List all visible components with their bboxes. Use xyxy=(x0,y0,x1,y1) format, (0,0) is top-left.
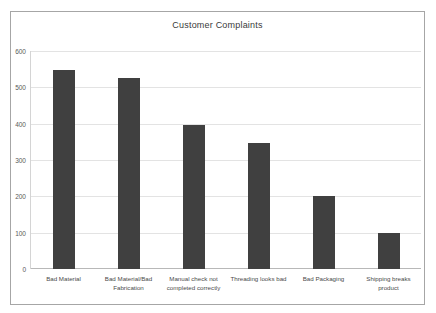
bar[interactable] xyxy=(118,78,140,269)
bar-slot: Threading looks bad xyxy=(226,51,291,269)
bar-slot: Bad Material xyxy=(31,51,96,269)
x-axis-category-label: Bad Packaging xyxy=(293,275,355,284)
y-axis-tick-label: 500 xyxy=(15,84,26,91)
bar[interactable] xyxy=(313,196,335,269)
x-axis-category-label: Bad Material xyxy=(33,275,95,284)
bar[interactable] xyxy=(183,125,205,269)
bar-slot: Manual check not completed correctly xyxy=(161,51,226,269)
bar[interactable] xyxy=(378,233,400,269)
chart-title: Customer Complaints xyxy=(11,20,424,30)
y-axis-tick-label: 600 xyxy=(15,48,26,55)
x-axis-category-label: Threading looks bad xyxy=(228,275,290,284)
bar-slot: Bad Packaging xyxy=(291,51,356,269)
gridline xyxy=(31,269,421,270)
y-axis-tick-label: 200 xyxy=(15,193,26,200)
x-axis-category-label: Bad Material/Bad Fabrication xyxy=(98,275,160,292)
bar[interactable] xyxy=(53,70,75,269)
y-axis-tick-label: 300 xyxy=(15,157,26,164)
bar-slot: Bad Material/Bad Fabrication xyxy=(96,51,161,269)
plot-area: 0100200300400500600 Bad MaterialBad Mate… xyxy=(31,51,421,269)
bar-slot: Shipping breaks product xyxy=(356,51,421,269)
x-axis-category-label: Shipping breaks product xyxy=(358,275,420,292)
chart-container: Customer Complaints 0100200300400500600 … xyxy=(10,11,425,305)
bar[interactable] xyxy=(248,143,270,269)
y-axis-tick-label: 0 xyxy=(22,266,26,273)
x-axis-category-label: Manual check not completed correctly xyxy=(163,275,225,292)
y-axis-tick-label: 400 xyxy=(15,120,26,127)
y-axis-tick-label: 100 xyxy=(15,229,26,236)
